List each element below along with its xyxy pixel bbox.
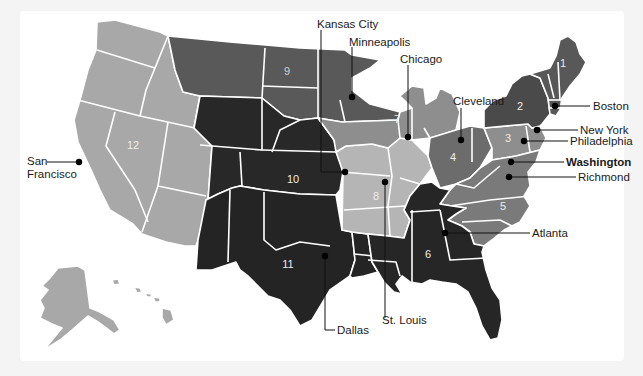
district-11-number: 11 (282, 258, 293, 270)
chicago-label: Chicago (400, 53, 442, 65)
minneapolis-marker[interactable] (349, 94, 355, 100)
st-louis-marker[interactable] (382, 179, 388, 185)
district-8-number: 8 (373, 190, 379, 202)
richmond-label: Richmond (578, 171, 630, 183)
atlanta-marker[interactable] (442, 230, 448, 236)
district-2-number: 2 (517, 100, 523, 112)
washington-label: Washington (566, 156, 631, 168)
district-6-number: 6 (425, 248, 431, 260)
richmond-marker[interactable] (506, 174, 512, 180)
district-7-number: 7 (394, 113, 400, 125)
chicago-marker[interactable] (405, 134, 411, 140)
cleveland-marker[interactable] (458, 137, 464, 143)
alaska-hawaii-region[interactable] (40, 266, 174, 350)
district-3-number: 3 (505, 132, 511, 144)
district-4-number: 4 (450, 151, 456, 163)
minneapolis-label: Minneapolis (349, 36, 411, 48)
san-francisco-label-line2: Francisco (27, 168, 77, 180)
st-louis-label: St. Louis (382, 314, 427, 326)
federal-reserve-map: 9 12 10 11 7 8 4 3 2 1 5 6 Kansas City M… (0, 0, 643, 376)
boston-marker[interactable] (552, 103, 558, 109)
washington-marker[interactable] (508, 159, 514, 165)
dallas-marker[interactable] (322, 253, 328, 259)
kansas-city-label: Kansas City (317, 18, 379, 30)
atlanta-label: Atlanta (532, 227, 568, 239)
cleveland-label: Cleveland (453, 95, 504, 107)
new-york-marker[interactable] (534, 127, 540, 133)
san-francisco-marker[interactable] (76, 159, 82, 165)
boston-label: Boston (593, 100, 629, 112)
district-1-number: 1 (560, 57, 566, 69)
philadelphia-label: Philadelphia (570, 135, 633, 147)
philadelphia-marker[interactable] (521, 138, 527, 144)
kansas-city-marker[interactable] (342, 169, 348, 175)
dallas-label: Dallas (337, 324, 369, 336)
district-5-number: 5 (500, 200, 506, 212)
district-10-number: 10 (287, 173, 299, 185)
district-12-number: 12 (127, 139, 139, 151)
district-9-number: 9 (284, 65, 290, 77)
san-francisco-label-line1: San (27, 155, 47, 167)
